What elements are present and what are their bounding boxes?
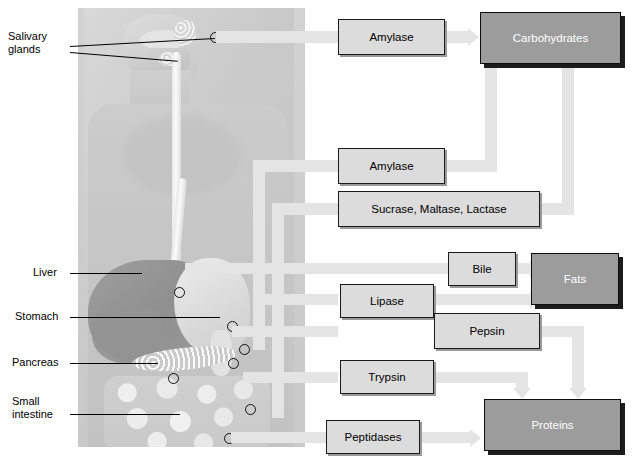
flow-trypsin-out [434,372,528,383]
enzyme-box-lipase[interactable]: Lipase [340,284,434,318]
enzyme-box-amylase-pancreas[interactable]: Amylase [338,148,445,184]
flow-lipase-to-fats [434,294,532,305]
nutrient-box-proteins[interactable]: Proteins [484,399,621,451]
leader-line-liver [70,273,142,274]
flow-sucrase-riser [562,60,574,215]
enzyme-box-amylase-saliva[interactable]: Amylase [338,19,445,55]
leader-line-pancreas [70,363,158,364]
nutrient-box-fats[interactable]: Fats [531,253,619,305]
organ-label-pancreas: Pancreas [12,356,58,369]
flow-stomach-to-pepsin [232,326,338,337]
enzyme-box-trypsin[interactable]: Trypsin [340,360,434,394]
flow-intestine-riser-carbs [272,203,284,418]
arrowhead-trypsin-to-proteins [513,388,531,399]
marker-pancreas-lower [228,358,239,369]
figure-caption [64,463,624,474]
flow-pancreas-riser [253,160,265,350]
organ-label-stomach: Stomach [15,310,58,323]
marker-liver [174,287,185,298]
arrowhead-pepsin-to-proteins [569,388,587,399]
flow-peptidases-out [420,432,472,443]
diagram-canvas: Salivary glands Liver Stomach Pancreas S… [0,0,636,474]
enzyme-box-bile[interactable]: Bile [448,252,516,286]
arrowhead-peptidases-to-proteins [470,429,481,447]
organ-label-small-intestine: Small intestine [12,395,70,420]
enzyme-box-pepsin[interactable]: Pepsin [434,313,540,349]
enzyme-box-peptidases[interactable]: Peptidases [326,420,420,454]
flow-salivary-to-amylase [216,31,338,43]
marker-small-intestine-upper [245,404,256,415]
flow-pancreas-to-trypsin [243,372,338,383]
arrowhead-amylase-to-carbs [468,28,479,46]
leader-line-stomach [70,317,220,318]
organ-label-liver: Liver [33,266,57,279]
leader-line-small-intestine [70,414,180,415]
organ-label-salivary-glands: Salivary glands [8,30,70,55]
marker-pancreas-left [168,373,179,384]
flow-pancreas-to-lipase [253,294,338,305]
enzyme-box-sucrase-maltase-lactase[interactable]: Sucrase, Maltase, Lactase [338,191,540,227]
nutrient-box-carbohydrates[interactable]: Carbohydrates [480,12,621,64]
flow-amylase-to-carbs [445,31,469,43]
flow-amylase2-riser [485,60,497,172]
flow-pepsin-drop [572,326,584,390]
marker-pancreas-upper [239,344,250,355]
flow-intestine-to-peptidases [231,432,338,443]
flow-liver-to-bile [185,263,448,274]
flow-pancreas-to-amylase2 [253,160,338,172]
